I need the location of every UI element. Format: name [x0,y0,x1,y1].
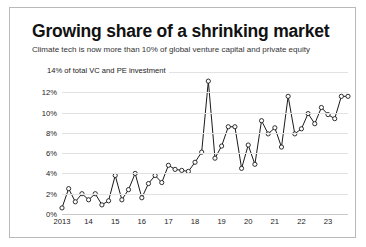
data-point-marker [333,117,337,121]
y-axis-tick-label: 2% [46,189,57,198]
x-axis-tick-label: 20 [244,217,252,226]
data-point-marker [259,119,263,123]
data-point-marker [299,127,303,131]
grid-line [62,92,348,93]
x-axis-tick-label: 19 [217,217,225,226]
data-point-marker [60,206,64,210]
x-axis-tick-label: 21 [271,217,279,226]
x-axis-tick-label: 14 [84,217,92,226]
series-line [62,81,348,208]
data-point-marker [226,125,230,129]
data-point-marker [246,143,250,147]
x-axis-tick-label: 18 [191,217,199,226]
data-point-marker [253,162,257,166]
data-point-marker [273,126,277,130]
data-point-marker [319,105,323,109]
data-point-marker [346,94,350,98]
data-point-marker [180,168,184,172]
grid-line [62,113,348,114]
data-point-marker [160,180,164,184]
data-point-marker [120,198,124,202]
grid-line [62,194,348,195]
grid-line [62,153,348,154]
data-point-marker [313,122,317,126]
x-axis-tick-label: 16 [138,217,146,226]
x-axis-tick-label: 2013 [54,217,71,226]
data-point-marker [67,187,71,191]
x-axis-tick-label: 22 [297,217,305,226]
grid-line [62,133,348,134]
data-point-marker [87,198,91,202]
y-axis-note: 14% of total VC and PE investment [47,66,169,75]
data-point-marker [100,203,104,207]
grid-line [62,173,348,174]
x-axis-tick-label: 17 [164,217,172,226]
plot-area: 0%2%4%6%8%10%12%201314151617181920212223 [62,72,348,214]
data-point-marker [173,167,177,171]
y-axis-tick-label: 4% [46,169,57,178]
data-point-marker [233,125,237,129]
y-axis-tick-label: 8% [46,128,57,137]
x-axis-tick-label: 23 [324,217,332,226]
data-point-marker [206,79,210,83]
chart-title: Growing share of a shrinking market [32,21,329,42]
data-point-marker [146,181,150,185]
data-point-marker [279,145,283,149]
x-axis-tick-label: 15 [111,217,119,226]
data-point-marker [166,163,170,167]
data-point-marker [339,94,343,98]
data-point-marker [239,166,243,170]
chart-card: Growing share of a shrinking market Clim… [9,7,356,238]
y-axis-tick-label: 12% [42,88,57,97]
line-series [62,72,348,214]
chart-subtitle: Climate tech is now more than 10% of glo… [32,45,310,54]
data-point-marker [126,188,130,192]
data-point-marker [286,94,290,98]
data-point-marker [193,160,197,164]
data-point-marker [220,144,224,148]
y-axis-tick-label: 6% [46,149,57,158]
data-point-marker [106,199,110,203]
grid-line [62,214,348,215]
data-point-marker [73,200,77,204]
data-point-marker [140,196,144,200]
y-axis-tick-label: 10% [42,108,57,117]
data-point-marker [213,156,217,160]
